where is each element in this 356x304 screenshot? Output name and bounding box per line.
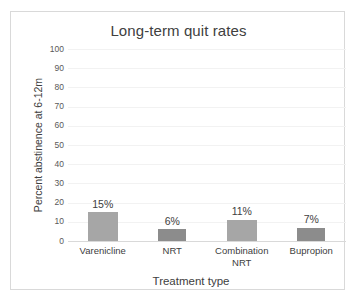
x-category-label: Combination NRT [207,245,277,269]
plot-area: 15%6%11%7% [68,49,346,241]
x-axis-line [68,241,346,242]
y-tick-label: 70 [42,102,64,111]
y-tick-label: 80 [42,83,64,92]
y-tick-label: 30 [42,179,64,188]
bar[interactable] [88,212,118,241]
y-tick-label: 90 [42,64,64,73]
chart-container: Long-term quit rates Percent abstinence … [10,11,345,290]
y-tick-label: 10 [42,217,64,226]
bar-group: 6% [138,49,208,241]
y-tick-label: 40 [42,160,64,169]
x-axis-title: Treatment type [46,275,336,287]
x-category-label: Bupropion [280,245,342,257]
bar-group: 7% [277,49,347,241]
bar-value-label: 6% [165,216,180,227]
y-tick-label: 20 [42,198,64,207]
bar-value-label: 15% [92,199,113,210]
y-tick-label: 50 [42,141,64,150]
bar[interactable] [227,220,257,241]
bar-value-label: 11% [232,206,252,217]
y-tick-label: 0 [42,237,64,246]
bar-group: 15% [68,49,138,241]
x-category-label: Varenicline [68,245,138,257]
y-tick-label: 100 [42,45,64,54]
x-category-label: NRT [147,245,197,257]
bar[interactable] [297,228,325,241]
x-axis-category-labels: VareniclineNRTCombination NRTBupropion [68,245,346,277]
bar[interactable] [158,229,186,241]
y-tick-label: 60 [42,121,64,130]
bar-value-label: 7% [304,214,319,225]
y-axis-tick-labels: 1009080706050403020100 [42,12,64,304]
bar-group: 11% [207,49,277,241]
